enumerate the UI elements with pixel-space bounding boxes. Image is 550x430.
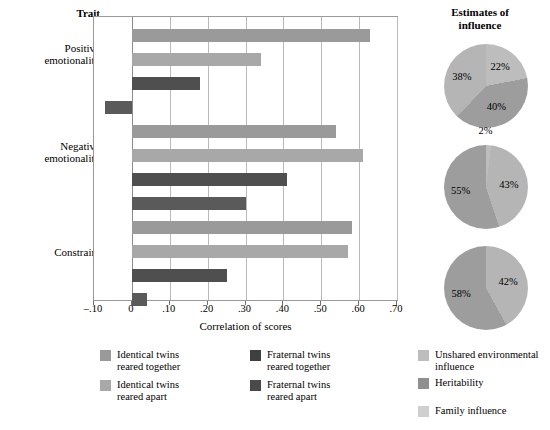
pie-title-line1: Estimates of [410, 6, 550, 19]
pie-legend-swatch [418, 378, 429, 389]
legend-label: Fraternal twinsreared together [267, 349, 377, 372]
legend-label-line2: reared together [117, 361, 227, 373]
legend-label: Identical twinsreared apart [117, 379, 227, 402]
pie-chart-positive-emotionality [444, 44, 528, 128]
category-label-line1: Positive [5, 42, 100, 54]
gridline [397, 17, 398, 300]
pie-legend-label-line1: Heritability [435, 377, 550, 389]
x-axis-tick-label: .10 [162, 303, 175, 314]
pie-panel-title: Estimates of influence [410, 6, 550, 31]
x-axis-tick-label: .40 [276, 303, 289, 314]
pie-chart-panel: Estimates of influence Unshared environm… [410, 0, 550, 430]
legend-swatch [100, 350, 111, 361]
category-label-positive-emotionality: Positive emotionality [5, 42, 100, 66]
pie-slice-label: 22% [491, 61, 510, 72]
legend-label-line1: Identical twins [117, 379, 227, 391]
bar [105, 101, 132, 114]
bar [132, 53, 261, 66]
bar [132, 197, 246, 210]
category-label-line2: emotionality [5, 54, 100, 66]
x-axis-tick-label: .50 [314, 303, 327, 314]
pie-slice-label: 40% [487, 101, 506, 112]
x-axis-tick-label: .20 [200, 303, 213, 314]
bar [132, 77, 200, 90]
legend-label: Fraternal twinsreared apart [267, 379, 377, 402]
legend-label-line2: reared apart [267, 391, 377, 403]
legend-label-line2: reared apart [117, 391, 227, 403]
legend-label-line1: Fraternal twins [267, 349, 377, 361]
x-axis-tick-label: .60 [352, 303, 365, 314]
pie-legend-label: Family influence [435, 405, 550, 417]
category-label-line1: Negative [5, 140, 100, 152]
pie-legend-label-line2: influence [435, 361, 550, 373]
pie-slice-label: 42% [499, 276, 518, 287]
pie-slice-label: 58% [451, 288, 470, 299]
pie-title-line2: influence [410, 19, 550, 32]
category-label-negative-emotionality: Negative emotionality [5, 140, 100, 164]
legend-label-line1: Fraternal twins [267, 379, 377, 391]
x-axis-tick-label: –.10 [84, 303, 102, 314]
pie-legend-swatch [418, 350, 429, 361]
category-label-constraint: Constraint [5, 246, 100, 258]
bar [132, 293, 147, 306]
bar [132, 269, 227, 282]
x-axis-tick-label: .30 [238, 303, 251, 314]
legend-swatch [250, 380, 261, 391]
bar [132, 149, 363, 162]
chart-figure: Trait Positive emotionality Negative emo… [0, 0, 550, 430]
trait-axis-heading: Trait [38, 7, 100, 19]
bar [132, 125, 337, 138]
bar [132, 173, 287, 186]
category-label-line2: emotionality [5, 152, 100, 164]
pie-slice-label: 43% [499, 179, 518, 190]
x-axis-title: Correlation of scores [93, 320, 398, 332]
x-axis-tick-label: .70 [389, 303, 402, 314]
legend-swatch [100, 380, 111, 391]
bar [132, 245, 348, 258]
pie-legend-swatch [418, 406, 429, 417]
pie-legend-label: Unshared environmentalinfluence [435, 349, 550, 372]
legend-swatch [250, 350, 261, 361]
pie-slice-label: 55% [451, 185, 470, 196]
bar [132, 29, 371, 42]
legend-label-line1: Identical twins [117, 349, 227, 361]
bar-plot-area [93, 16, 398, 301]
legend-label-line2: reared together [267, 361, 377, 373]
pie-legend-label: Heritability [435, 377, 550, 389]
bar-chart-legend: Identical twinsreared togetherIdentical … [100, 350, 400, 410]
bar-chart-panel: Trait Positive emotionality Negative emo… [0, 0, 410, 345]
pie-slice-label: 38% [452, 71, 471, 82]
pie-legend-label-line1: Family influence [435, 405, 550, 417]
pie-slice-label: 2% [478, 125, 492, 136]
pie-legend-label-line1: Unshared environmental [435, 349, 550, 361]
legend-label: Identical twinsreared together [117, 349, 227, 372]
x-axis-tick-label: 0 [128, 303, 133, 314]
bar [132, 221, 352, 234]
